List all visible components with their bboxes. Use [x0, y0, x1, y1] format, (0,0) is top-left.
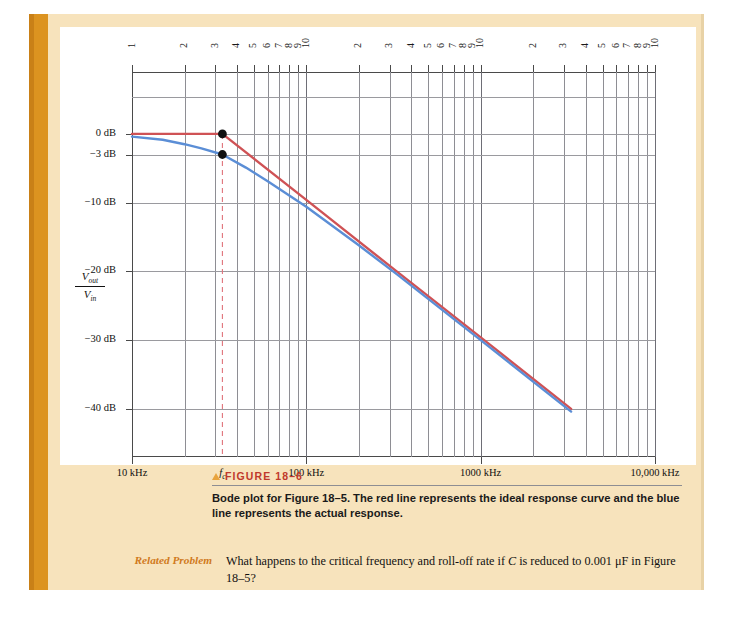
- figure-caption: FIGURE 18–6 Bode plot for Figure 18–5. T…: [212, 470, 682, 521]
- related-problem-block: Related Problem What happens to the crit…: [120, 553, 686, 588]
- related-problem-text: What happens to the critical frequency a…: [226, 553, 686, 588]
- triangle-up-icon: [212, 473, 220, 480]
- figure-caption-text: Bode plot for Figure 18–5. The red line …: [212, 491, 682, 521]
- page-right-rule: [701, 14, 704, 590]
- bode-plot-chart: 1234567891023456789102345678910 0 dB−3 d…: [60, 27, 696, 465]
- textbook-page: 1234567891023456789102345678910 0 dB−3 d…: [0, 0, 732, 617]
- rp-italic-c: C: [508, 554, 516, 568]
- related-problem-label: Related Problem: [120, 553, 212, 588]
- response-curves: [60, 27, 696, 465]
- minus3db-dot: [218, 150, 227, 159]
- figure-number: FIGURE 18–6: [225, 470, 303, 482]
- ideal-corner-dot: [218, 130, 227, 139]
- x-axis-tick-label: 10 kHz: [87, 467, 177, 478]
- rp-text-part1: What happens to the critical frequency a…: [226, 554, 508, 568]
- caption-divider: [212, 485, 682, 486]
- actual-response-line: [132, 137, 571, 412]
- figure-caption-header: FIGURE 18–6: [212, 470, 682, 482]
- page-spine-shadow: [29, 14, 34, 590]
- ideal-response-line: [132, 134, 571, 409]
